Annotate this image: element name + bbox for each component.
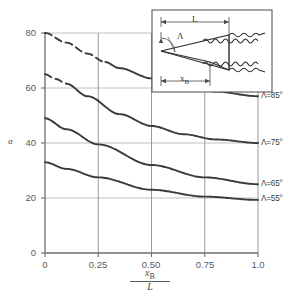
y-tick-label-0: 0 bbox=[10, 247, 36, 258]
curve-label-sweep-75: Λ=75° bbox=[261, 138, 283, 147]
y-tick-label-20: 20 bbox=[10, 192, 36, 203]
x-axis-label-denominator: L bbox=[130, 282, 170, 293]
curve-label-sweep-65: Λ=65° bbox=[261, 179, 283, 188]
x-tick-label-0.75: 0.75 bbox=[188, 259, 222, 270]
x-tick-label-0.25: 0.25 bbox=[81, 259, 115, 270]
curve-label-sweep-55: Λ=55° bbox=[261, 194, 283, 203]
x-tick-label-1.0: 1.0 bbox=[241, 259, 275, 270]
y-tick-label-40: 40 bbox=[10, 137, 36, 148]
y-tick-label-80: 80 bbox=[10, 27, 36, 38]
inset-label-station: xB bbox=[180, 73, 189, 86]
inset-label-sweep: Λ bbox=[177, 31, 184, 41]
y-tick-label-60: 60 bbox=[10, 82, 36, 93]
x-tick-label-0: 0 bbox=[28, 259, 62, 270]
x-axis-label: xB L bbox=[130, 268, 170, 293]
inset-diagram bbox=[152, 10, 272, 92]
inset-label-length: L bbox=[192, 14, 198, 24]
x-axis-label-numerator: xB bbox=[130, 268, 170, 282]
curve-label-sweep-85: Λ=85° bbox=[261, 91, 283, 100]
